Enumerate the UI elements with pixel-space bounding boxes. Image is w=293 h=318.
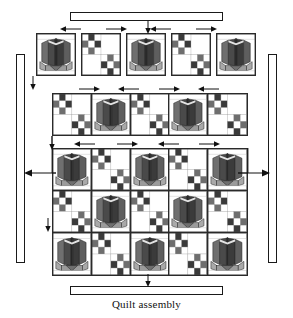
press-arrow-left [60,25,82,32]
block-ninepatch [92,233,131,275]
block-tulip [169,94,208,135]
block-ninepatch [53,94,92,135]
block-ninepatch [81,33,121,76]
left-border-strip [16,54,25,263]
row-2 [52,93,248,136]
block-ninepatch [169,233,208,275]
diagram-caption: Quilt assembly [0,298,293,310]
block-ninepatch [131,191,170,232]
block-tulip [131,233,170,275]
block-tulip [216,33,256,76]
body-join-arrow [44,218,53,232]
row2-join-arrow [48,136,57,150]
row-1 [36,33,257,76]
block-tulip [169,191,208,232]
press-arrow-right [198,140,220,147]
press-arrow-right [195,25,217,32]
block-tulip [53,149,92,190]
top-border-strip [70,12,223,21]
block-ninepatch [208,191,247,232]
block-ninepatch [92,149,131,190]
press-arrow-right [158,85,180,92]
press-arrow-left [74,140,96,147]
block-ninepatch [171,33,211,76]
block-ninepatch [131,94,170,135]
bottom-border-attach-arrow [144,274,153,287]
block-tulip [92,191,131,232]
quilt-assembly-diagram: Quilt assembly [0,0,293,318]
block-tulip [126,33,166,76]
left-border-attach-arrow [24,168,56,177]
block-tulip [53,233,92,275]
top-border-attach-arrow [144,21,153,34]
block-tulip [131,149,170,190]
press-arrow-left [198,85,220,92]
right-border-attach-arrow [238,168,270,177]
block-ninepatch [169,149,208,190]
press-arrow-left [118,85,140,92]
quilt-body-row-3 [53,233,247,275]
block-ninepatch [53,191,92,232]
quilt-body-row-1 [53,149,247,191]
press-arrow-right [116,140,138,147]
block-tulip [208,233,247,275]
press-arrow-right [105,25,127,32]
quilt-body [52,148,248,276]
bottom-border-strip [70,286,223,295]
quilt-body-row-2 [53,191,247,233]
right-border-strip [268,54,277,263]
press-arrow-left [150,25,172,32]
press-arrow-left [158,140,180,147]
block-tulip [92,94,131,135]
block-ninepatch [208,94,247,135]
block-tulip [36,33,76,76]
press-arrow-right [78,85,100,92]
row1-join-arrow [29,76,38,90]
